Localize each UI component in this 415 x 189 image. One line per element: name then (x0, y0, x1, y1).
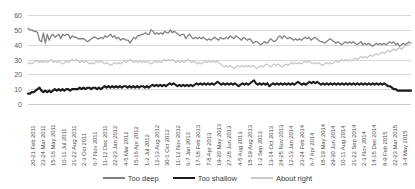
legend-swatch-icon (103, 177, 125, 178)
x-tick-label: 21-22 Sep 2014 (351, 125, 357, 166)
x-axis-labels: 20-21 Feb 201123-24 Mar 201115-16 May 20… (28, 106, 411, 166)
legend-label: Too shallow (198, 174, 237, 183)
y-tick-label: 40 (14, 41, 22, 48)
x-tick-label: 10-11 Aug 2014 (340, 125, 346, 166)
legend-label: Too deep (128, 174, 159, 183)
x-tick-label: 13-14 Oct 2013 (268, 126, 274, 166)
x-tick-label: 29-30 Jun 2014 (330, 126, 336, 166)
x-tick-label: 2-3 Oct 2011 (81, 133, 87, 166)
x-tick-label: 2-3 Nov 2014 (361, 131, 367, 166)
x-tick-label: 15-16 Apr 2012 (133, 126, 139, 166)
plot-area (28, 15, 411, 104)
x-tick-label: 17-18 Feb 2013 (195, 125, 201, 166)
y-axis-labels: 0102030405060 (0, 15, 24, 104)
x-tick-label: 14-15 Dec 2014 (371, 125, 377, 166)
x-tick-label: 8-9 Feb 2015 (382, 132, 388, 167)
legend-item-too-deep[interactable]: Too deep (103, 174, 159, 183)
y-tick-label: 20 (14, 71, 22, 78)
x-tick-label: 12-13 Jan 2014 (288, 126, 294, 166)
x-tick-label: 21-22 Aug 2011 (71, 125, 77, 166)
x-tick-label: 18-19 May 2014 (320, 124, 326, 166)
x-tick-label: 4-5 Mar 2012 (123, 132, 129, 167)
x-tick-label: 24-25 Nov 2013 (278, 125, 284, 166)
x-tick-label: 3-4 May 2015 (402, 131, 408, 167)
x-tick-label: 11-12 Nov 2012 (175, 125, 181, 166)
chart-legend: Too deepToo shallowAbout right (0, 170, 415, 186)
legend-item-about-right[interactable]: About right (251, 174, 312, 183)
series-line-too-deep (28, 28, 411, 46)
x-tick-label: 6-7 Nov 2011 (92, 132, 98, 166)
line-chart: 0102030405060 20-21 Feb 201123-24 Mar 20… (0, 0, 415, 189)
legend-swatch-icon (173, 177, 195, 179)
series-line-too-shallow (28, 80, 411, 93)
x-tick-label: 6-7 Apr 2014 (309, 133, 315, 166)
x-tick-label: 11-12 Dec 2011 (102, 126, 108, 166)
y-tick-label: 60 (14, 12, 22, 19)
legend-label: About right (276, 174, 312, 183)
x-tick-label: 7-8 Apr 2013 (206, 133, 212, 166)
x-tick-label: 30-1 Oct 2012 (164, 129, 170, 166)
y-tick-label: 50 (14, 26, 22, 33)
legend-item-too-shallow[interactable]: Too shallow (173, 174, 237, 183)
x-tick-label: 6-7 Jan 2013 (185, 132, 191, 166)
y-tick-label: 30 (14, 56, 22, 63)
x-tick-label: 22-23 Mar 2015 (392, 125, 398, 166)
x-tick-label: 18-19 Aug 2013 (247, 125, 253, 166)
gridline-0 (28, 104, 411, 105)
series-line-about-right (28, 43, 411, 68)
legend-swatch-icon (251, 177, 273, 178)
y-tick-label: 10 (14, 86, 22, 93)
x-tick-label: 23-24 Mar 2011 (40, 125, 46, 166)
x-tick-label: 22-23 Jan 2012 (112, 126, 118, 166)
y-tick-label: 0 (18, 101, 22, 108)
x-tick-label: 1-2 Jul 2012 (144, 134, 150, 166)
series-lines (28, 15, 411, 104)
x-tick-label: 4-5 Aug 2013 (237, 132, 243, 167)
x-tick-label: 15-16 May 2011 (50, 124, 56, 166)
x-tick-label: 20-21 Feb 2011 (30, 125, 36, 166)
x-tick-label: 12-13 Aug 2012 (154, 125, 160, 166)
x-tick-label: 1-2 Sep 2013 (257, 131, 263, 166)
x-tick-label: 10-11 Jul 2011 (61, 129, 67, 166)
x-tick-label: 27-28 Jun 2013 (226, 126, 232, 166)
x-tick-label: 19-20 May 2013 (216, 124, 222, 166)
x-tick-label: 23-24 Feb 2014 (299, 125, 305, 166)
